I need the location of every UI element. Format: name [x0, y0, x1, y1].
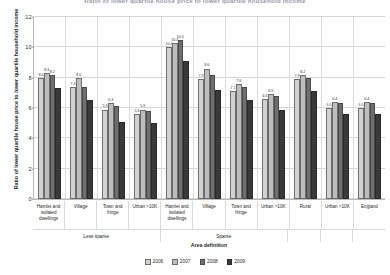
y-axis-tick-label: 12: [25, 14, 31, 20]
bar-group: 6.06.4: [322, 17, 354, 199]
bar-wrapper: [279, 17, 285, 199]
bar-wrapper: [87, 17, 93, 199]
bar-value-label: 8.2: [50, 71, 55, 75]
bar-value-label: 8.3: [44, 69, 49, 73]
x-axis-category-label: Village: [193, 201, 225, 229]
x-axis-grouping-labels: Less sparseSparse: [33, 229, 385, 242]
x-axis-group-label: [353, 230, 385, 242]
bar-group: 10.010.310.5: [162, 17, 194, 199]
x-axis-category-label: Rural: [290, 201, 322, 229]
bar-value-label: 7.9: [295, 75, 300, 79]
legend-label: 2008: [207, 259, 218, 264]
bar-2009[interactable]: [87, 100, 93, 199]
bar-wrapper: [183, 17, 189, 199]
x-axis-category-label: Urban >10K: [258, 201, 290, 229]
legend-item[interactable]: 2007: [172, 259, 190, 265]
bar-group: 7.98.6: [194, 17, 226, 199]
legend-label: 2006: [153, 259, 164, 264]
bar-2009[interactable]: [55, 88, 61, 199]
bar-value-label: 7.9: [199, 75, 204, 79]
bar-wrapper: [375, 17, 381, 199]
bar-value-label: 6.4: [364, 98, 369, 102]
bar-value-label: 6.0: [359, 104, 364, 108]
chart-title: Ratio of lower quartile house price to l…: [0, 0, 390, 4]
bar-group: 5.65.9: [130, 17, 162, 199]
bar-wrapper: [343, 17, 349, 199]
bar-groups: 8.08.38.27.48.05.96.35.65.910.010.310.57…: [34, 17, 385, 199]
bar-wrapper: [119, 17, 125, 199]
bar-2009[interactable]: [343, 114, 349, 199]
bar-value-label: 8.6: [204, 64, 209, 68]
legend-swatch-icon: [227, 259, 233, 265]
x-axis-group-label: [321, 230, 354, 242]
bar-2009[interactable]: [215, 90, 221, 199]
x-axis-category-label: Town and fringe: [97, 201, 129, 229]
x-axis-category-label: Village: [65, 201, 97, 229]
bar-group: 5.96.3: [98, 17, 130, 199]
x-axis-group-label: [288, 230, 321, 242]
bar-2009[interactable]: [279, 110, 285, 199]
bar-group: 6.06.4: [354, 17, 385, 199]
bar-2009[interactable]: [183, 61, 189, 199]
bar-value-label: 7.4: [71, 83, 76, 87]
bar-group: 7.17.6: [226, 17, 258, 199]
x-axis-category-label: Town and fringe: [226, 201, 258, 229]
bar-2009[interactable]: [151, 123, 157, 199]
x-axis-category-label: Urban >10K: [129, 201, 161, 229]
bar-value-label: 8.0: [76, 74, 81, 78]
bar-value-label: 6.9: [268, 90, 273, 94]
bar-value-label: 6.4: [332, 98, 337, 102]
bar-value-label: 5.9: [103, 105, 108, 109]
chart-container: Ratio of lower quartile house price to l…: [0, 0, 390, 275]
x-axis-category-label: Hamlet and isolated dwellings: [33, 201, 65, 229]
bar-value-label: 8.0: [39, 74, 44, 78]
x-axis-category-labels: Hamlet and isolated dwellingsVillageTown…: [33, 201, 385, 229]
chart-legend: 2006200720082009: [0, 259, 390, 265]
plot-area: 024681012 8.08.38.27.48.05.96.35.65.910.…: [33, 17, 385, 200]
bar-2009[interactable]: [119, 122, 125, 199]
bar-value-label: 5.9: [140, 105, 145, 109]
bar-value-label: 6.6: [263, 95, 268, 99]
bar-wrapper: [151, 17, 157, 199]
legend-label: 2009: [234, 259, 245, 264]
bar-2009[interactable]: [375, 114, 381, 199]
y-axis-title: Ratio of lower quartile house price to l…: [13, 4, 19, 194]
bar-wrapper: [311, 17, 317, 199]
legend-item[interactable]: 2006: [145, 259, 163, 265]
bar-value-label: 6.3: [108, 99, 113, 103]
bar-2009[interactable]: [247, 100, 253, 199]
bar-group: 8.08.38.2: [34, 17, 66, 199]
x-axis-group-label: Less sparse: [33, 230, 161, 242]
bar-value-label: 5.6: [135, 110, 140, 114]
x-axis-category-label: Urban >10K: [322, 201, 354, 229]
bar-wrapper: [247, 17, 253, 199]
bar-wrapper: [215, 17, 221, 199]
legend-swatch-icon: [200, 259, 206, 265]
legend-item[interactable]: 2009: [227, 259, 245, 265]
bar-value-label: 6.0: [327, 104, 332, 108]
bar-group: 7.48.0: [66, 17, 98, 199]
x-axis-title: Area definition: [33, 242, 385, 248]
legend-swatch-icon: [172, 259, 178, 265]
legend-item[interactable]: 2008: [200, 259, 218, 265]
legend-label: 2007: [180, 259, 191, 264]
bar-2009[interactable]: [311, 91, 317, 199]
bar-wrapper: [55, 17, 61, 199]
bar-value-label: 7.1: [231, 87, 236, 91]
x-axis-category-label: Hamlet and isolated dwellings: [161, 201, 193, 229]
x-axis-group-label: Sparse: [161, 230, 289, 242]
bar-group: 7.98.2: [290, 17, 322, 199]
bar-group: 6.66.9: [258, 17, 290, 199]
bar-value-label: 7.6: [236, 80, 241, 84]
legend-swatch-icon: [145, 259, 151, 265]
bar-value-label: 8.2: [300, 71, 305, 75]
y-axis-tick-label: 10: [25, 44, 31, 50]
x-axis-category-label: England: [354, 201, 385, 229]
